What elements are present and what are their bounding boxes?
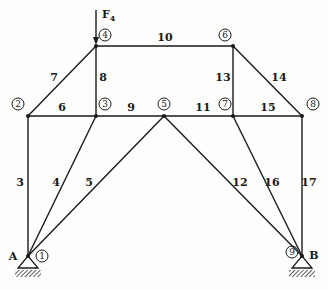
joint-dot bbox=[300, 114, 304, 118]
node-label-5: 5 bbox=[161, 99, 167, 109]
joint-dot bbox=[300, 254, 304, 258]
member-label-8: 8 bbox=[99, 71, 107, 84]
member-5 bbox=[28, 116, 164, 256]
member-label-16: 16 bbox=[264, 176, 280, 189]
force-label: F4 bbox=[102, 8, 116, 23]
truss-diagram: AB F4 123456789 34567891011121314151617 bbox=[0, 0, 328, 290]
member-label-17: 17 bbox=[301, 176, 316, 189]
node-8: 8 bbox=[300, 98, 319, 118]
member-label-14: 14 bbox=[271, 71, 287, 84]
joint-dot bbox=[26, 114, 30, 118]
joint-dot bbox=[162, 114, 166, 118]
support-label-A: A bbox=[8, 250, 18, 263]
node-label-9: 9 bbox=[289, 247, 295, 257]
joint-dot bbox=[231, 44, 235, 48]
member-label-3: 3 bbox=[16, 176, 24, 189]
joint-dot bbox=[94, 44, 98, 48]
node-2: 2 bbox=[12, 98, 30, 118]
node-label-7: 7 bbox=[222, 99, 228, 109]
node-label-6: 6 bbox=[222, 30, 228, 40]
node-label-3: 3 bbox=[102, 99, 108, 109]
ground-hatch bbox=[289, 270, 315, 277]
member-label-7: 7 bbox=[50, 71, 58, 84]
member-label-15: 15 bbox=[260, 101, 275, 114]
members bbox=[28, 46, 302, 256]
node-5: 5 bbox=[158, 98, 170, 118]
node-label-1: 1 bbox=[39, 251, 45, 261]
member-label-6: 6 bbox=[58, 101, 66, 114]
node-label-8: 8 bbox=[310, 99, 316, 109]
node-6: 6 bbox=[219, 29, 235, 48]
node-label-4: 4 bbox=[102, 30, 108, 40]
member-label-9: 9 bbox=[127, 101, 135, 114]
joint-dot bbox=[231, 114, 235, 118]
member-label-10: 10 bbox=[157, 31, 173, 44]
node-label-2: 2 bbox=[15, 99, 21, 109]
joint-dot bbox=[26, 254, 30, 258]
arrow-down-icon bbox=[93, 37, 99, 45]
member-label-11: 11 bbox=[195, 101, 210, 114]
member-label-5: 5 bbox=[85, 176, 93, 189]
supports: AB bbox=[8, 249, 319, 277]
member-label-4: 4 bbox=[52, 176, 60, 189]
ground-hatch bbox=[15, 270, 41, 277]
joint-dot bbox=[94, 114, 98, 118]
support-label-B: B bbox=[309, 249, 318, 262]
member-label-12: 12 bbox=[232, 176, 247, 189]
member-label-13: 13 bbox=[215, 71, 230, 84]
